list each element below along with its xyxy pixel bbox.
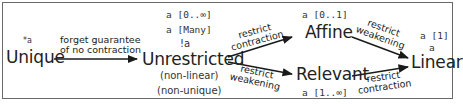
edge-label-forget-guarantee: forget guarantee of no contraction — [60, 35, 136, 55]
affine-annotation: a [0..1] — [302, 9, 348, 20]
unrestricted-note-non-linear: (non-linear) — [160, 70, 219, 81]
node-linear: Linear — [411, 52, 463, 72]
relevant-annotation: a [1..∞] — [302, 87, 348, 98]
linear-annotation-range: a [1] — [420, 30, 449, 41]
unique-annotation: *a — [23, 36, 32, 45]
node-affine: Affine — [305, 22, 353, 42]
unrestricted-annotation-range: a [0..∞] — [166, 9, 212, 20]
node-unique: Unique — [6, 47, 65, 67]
unrestricted-note-non-unique: (non-unique) — [157, 85, 222, 96]
edge-label-line: of no contraction — [60, 45, 136, 55]
unrestricted-annotation-many: a [Many] — [166, 24, 212, 35]
unrestricted-annotation-bang: !a — [180, 38, 190, 49]
